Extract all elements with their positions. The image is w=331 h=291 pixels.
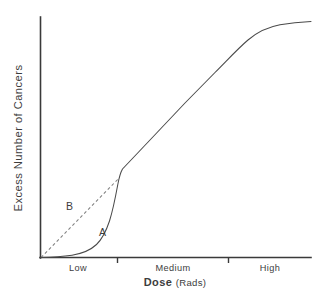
x-tick-label-medium: Medium — [156, 263, 191, 273]
x-axis-title-unit: (Rads) — [176, 277, 207, 288]
curve-a-threshold-response — [41, 22, 311, 258]
x-axis-title-bold: Dose — [144, 276, 173, 288]
x-tick-label-high: High — [260, 263, 280, 273]
y-axis-title: Excess Number of Cancers — [12, 65, 24, 212]
curve-label-b: B — [66, 200, 73, 212]
chart-plot-area: B A Low Medium High Dose(Rads) Excess Nu… — [0, 0, 331, 291]
dose-response-chart: B A Low Medium High Dose(Rads) Excess Nu… — [0, 0, 331, 291]
x-axis-title: Dose(Rads) — [144, 276, 207, 288]
x-tick-label-low: Low — [69, 263, 87, 273]
curve-b-linear-no-threshold — [41, 179, 119, 258]
curve-label-a: A — [99, 226, 106, 238]
